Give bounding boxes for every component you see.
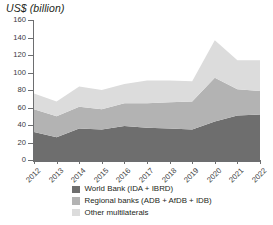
legend-swatch-icon <box>72 186 80 194</box>
legend-swatch-icon <box>72 197 80 205</box>
x-tick <box>79 160 80 164</box>
chart-legend: World Bank (IDA + IBRD) Regional banks (… <box>72 184 212 219</box>
plot-area <box>34 20 260 160</box>
stacked-area-chart: US$ (billion) 020406080100120140160 2012… <box>0 0 273 225</box>
legend-swatch-icon <box>72 209 80 217</box>
x-tick <box>192 160 193 164</box>
legend-item-world-bank: World Bank (IDA + IBRD) <box>72 184 212 195</box>
legend-label: World Bank (IDA + IBRD) <box>85 185 174 193</box>
y-tick <box>28 90 33 91</box>
y-tick-label: 60 <box>0 104 26 112</box>
area-series-group <box>34 20 260 160</box>
x-tick <box>260 160 261 164</box>
y-tick <box>28 55 33 56</box>
x-tick <box>215 160 216 164</box>
y-tick-label: 100 <box>0 69 26 77</box>
y-tick <box>28 38 33 39</box>
y-tick-label: 140 <box>0 34 26 42</box>
x-tick <box>34 160 35 164</box>
y-tick-label: 0 <box>0 156 26 164</box>
y-tick <box>28 160 33 161</box>
x-tick <box>170 160 171 164</box>
y-tick-label: 160 <box>0 16 26 24</box>
y-tick <box>28 20 33 21</box>
y-tick <box>28 125 33 126</box>
y-tick-label: 20 <box>0 139 26 147</box>
x-tick <box>147 160 148 164</box>
x-tick <box>102 160 103 164</box>
x-tick <box>124 160 125 164</box>
y-tick <box>28 108 33 109</box>
y-tick <box>28 73 33 74</box>
x-tick <box>237 160 238 164</box>
x-tick <box>57 160 58 164</box>
legend-label: Regional banks (ADB + AfDB + IDB) <box>85 197 212 205</box>
y-axis-title: US$ (billion) <box>6 2 65 14</box>
legend-label: Other multilaterals <box>85 209 149 217</box>
y-tick-label: 120 <box>0 51 26 59</box>
legend-item-regional-banks: Regional banks (ADB + AfDB + IDB) <box>72 196 212 207</box>
y-tick <box>28 143 33 144</box>
y-tick-label: 40 <box>0 121 26 129</box>
y-tick-label: 80 <box>0 86 26 94</box>
legend-item-other-multilaterals: Other multilaterals <box>72 207 212 218</box>
